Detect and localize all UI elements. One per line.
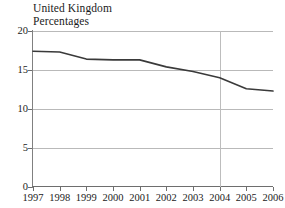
x-axis-tick-mark bbox=[273, 187, 274, 191]
x-axis-tick-mark bbox=[193, 187, 194, 191]
x-axis-tick-mark bbox=[140, 187, 141, 191]
x-axis-tick-mark bbox=[166, 187, 167, 191]
y-axis-tick-mark bbox=[28, 148, 32, 149]
plot-area bbox=[33, 31, 273, 187]
y-axis-tick-label: 0 bbox=[0, 182, 28, 192]
page-title: United Kingdom bbox=[33, 2, 112, 15]
gridline-horizontal bbox=[33, 31, 273, 32]
gridline-horizontal bbox=[33, 109, 273, 110]
x-axis-tick-mark bbox=[33, 187, 34, 191]
x-axis-tick-label: 2006 bbox=[253, 192, 285, 204]
x-axis-tick-mark bbox=[113, 187, 114, 191]
chart-subtitle: Percentages bbox=[33, 15, 112, 28]
y-axis-tick-mark bbox=[28, 187, 32, 188]
chart-page: United Kingdom Percentages 0510152019971… bbox=[0, 0, 285, 208]
y-axis-tick-label: 15 bbox=[0, 65, 28, 75]
y-axis-tick-mark bbox=[28, 109, 32, 110]
y-axis-tick-mark bbox=[28, 70, 32, 71]
gridline-horizontal bbox=[33, 148, 273, 149]
y-axis-tick-mark bbox=[28, 31, 32, 32]
gridline-vertical-2004 bbox=[220, 31, 221, 187]
x-axis-tick-mark bbox=[60, 187, 61, 191]
chart-title-block: United Kingdom Percentages bbox=[33, 2, 112, 28]
x-axis-tick-mark bbox=[220, 187, 221, 191]
x-axis-tick-mark bbox=[246, 187, 247, 191]
y-axis-tick-label: 20 bbox=[0, 26, 28, 36]
x-axis-tick-mark bbox=[86, 187, 87, 191]
y-axis-tick-label: 5 bbox=[0, 143, 28, 153]
gridline-horizontal bbox=[33, 70, 273, 71]
y-axis-tick-label: 10 bbox=[0, 104, 28, 114]
